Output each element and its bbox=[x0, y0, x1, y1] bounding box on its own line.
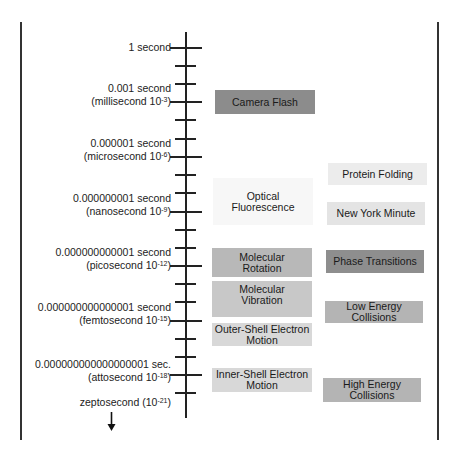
event-label: Protein Folding bbox=[342, 169, 413, 180]
time-label-picosecond: 0.000000000001 second (picosecond 10-12) bbox=[55, 246, 171, 272]
minor-tick bbox=[175, 138, 196, 140]
major-tick bbox=[170, 320, 202, 322]
timeline-axis bbox=[185, 32, 187, 418]
minor-tick bbox=[175, 283, 196, 285]
zepto-close: ) bbox=[168, 396, 172, 408]
event-molecular-vibration: Molecular Vibration bbox=[212, 281, 312, 317]
event-label: Outer-Shell Electron Motion bbox=[214, 324, 310, 346]
event-inner-shell-electron-motion: Inner-Shell Electron Motion bbox=[212, 368, 312, 392]
time-label-zeptosecond: zeptosecond (10-21) bbox=[80, 396, 171, 409]
minor-tick bbox=[175, 83, 196, 85]
label-line1: 0.000000000000001 second bbox=[38, 301, 171, 314]
label-line1: 0.000000000000000001 sec. bbox=[35, 358, 171, 371]
event-molecular-rotation: Molecular Rotation bbox=[212, 248, 312, 277]
event-label: Phase Transitions bbox=[333, 256, 416, 267]
major-tick bbox=[170, 211, 202, 213]
minor-tick bbox=[175, 192, 196, 194]
minor-tick bbox=[175, 301, 196, 303]
minor-tick bbox=[175, 119, 196, 121]
time-label-femtosecond: 0.000000000000001 second (femtosecond 10… bbox=[38, 301, 171, 327]
event-low-energy-collisions: Low Energy Collisions bbox=[325, 301, 423, 323]
zepto-exp: -21 bbox=[157, 397, 167, 404]
event-new-york-minute: New York Minute bbox=[327, 202, 425, 225]
label-line1: 0.000000000001 second bbox=[55, 246, 171, 259]
label-line2: (nanosecond 10-9) bbox=[73, 205, 171, 218]
major-tick bbox=[170, 374, 202, 376]
event-outer-shell-electron-motion: Outer-Shell Electron Motion bbox=[212, 323, 312, 346]
event-camera-flash: Camera Flash bbox=[215, 90, 315, 114]
time-label-nanosecond: 0.000000001 second (nanosecond 10-9) bbox=[73, 192, 171, 218]
minor-tick bbox=[175, 65, 196, 67]
time-label-1s: 1 second bbox=[128, 41, 171, 54]
minor-tick bbox=[175, 247, 196, 249]
event-label: Molecular Rotation bbox=[232, 252, 292, 274]
event-label: Inner-Shell Electron Motion bbox=[214, 369, 310, 391]
label-line2: (attosecond 10-18) bbox=[35, 371, 171, 384]
event-label: Optical Fluorescence bbox=[228, 191, 298, 213]
right-border-line bbox=[437, 22, 439, 440]
event-label: New York Minute bbox=[337, 208, 416, 219]
event-protein-folding: Protein Folding bbox=[328, 163, 427, 185]
major-tick bbox=[170, 265, 202, 267]
label-line2: (millisecond 10-3) bbox=[91, 95, 171, 108]
event-label: High Energy Collisions bbox=[337, 379, 407, 401]
event-label: Low Energy Collisions bbox=[339, 301, 409, 323]
event-label: Molecular Vibration bbox=[232, 284, 292, 306]
minor-tick bbox=[175, 356, 196, 358]
event-optical-fluorescence: Optical Fluorescence bbox=[213, 178, 313, 225]
event-phase-transitions: Phase Transitions bbox=[326, 250, 424, 273]
major-tick bbox=[170, 156, 202, 158]
left-border-line bbox=[20, 22, 22, 440]
zepto-text: zeptosecond (10 bbox=[80, 396, 158, 408]
minor-tick bbox=[175, 392, 196, 394]
minor-tick bbox=[175, 338, 196, 340]
down-arrow-icon bbox=[107, 412, 116, 432]
event-label: Camera Flash bbox=[232, 97, 298, 108]
time-label-millisecond: 0.001 second (millisecond 10-3) bbox=[91, 82, 171, 108]
major-tick bbox=[170, 47, 202, 49]
label-line1: 1 second bbox=[128, 41, 171, 53]
label-line2: (femtosecond 10-15) bbox=[38, 314, 171, 327]
label-line1: 0.000001 second bbox=[84, 137, 171, 150]
event-high-energy-collisions: High Energy Collisions bbox=[323, 378, 421, 402]
time-label-attosecond: 0.000000000000000001 sec. (attosecond 10… bbox=[35, 358, 171, 384]
minor-tick bbox=[175, 174, 196, 176]
label-line1: 0.001 second bbox=[91, 82, 171, 95]
label-line2: (picosecond 10-12) bbox=[55, 259, 171, 272]
label-line2: (microsecond 10-6) bbox=[84, 150, 171, 163]
minor-tick bbox=[175, 229, 196, 231]
major-tick bbox=[170, 101, 202, 103]
time-label-microsecond: 0.000001 second (microsecond 10-6) bbox=[84, 137, 171, 163]
label-line1: 0.000000001 second bbox=[73, 192, 171, 205]
